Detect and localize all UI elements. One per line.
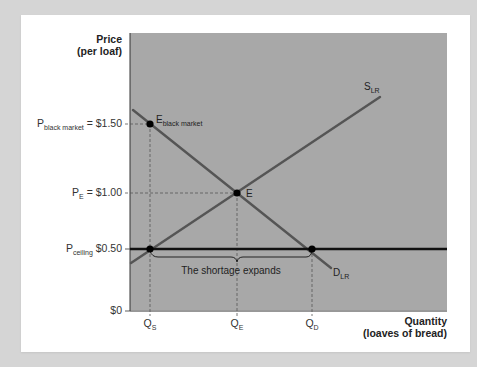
x-axis-title-line2: (loaves of bread) bbox=[363, 327, 447, 339]
point-e bbox=[233, 189, 240, 196]
shortage-annotation: The shortage expands bbox=[181, 265, 281, 276]
y-axis-title-line2: (per loaf) bbox=[77, 45, 122, 57]
price-ceiling-chart: Eblack market E SLR DLR The shortage exp… bbox=[0, 0, 477, 367]
y-axis-title-line1: Price bbox=[96, 33, 122, 45]
point-e-black-market bbox=[146, 120, 153, 127]
x-tick-qe: QE bbox=[231, 317, 244, 331]
y-tick-black-market: Pblack market = $1.50 bbox=[37, 117, 122, 131]
point-ceiling-qd bbox=[308, 245, 315, 252]
x-tick-qs: QS bbox=[144, 317, 157, 331]
x-axis-title-line1: Quantity bbox=[404, 315, 447, 327]
y-ticks bbox=[125, 249, 130, 311]
x-tick-qd: QD bbox=[305, 317, 318, 331]
y-tick-equilibrium: PE = $1.00 bbox=[72, 186, 122, 200]
y-tick-0: $0 bbox=[110, 304, 122, 316]
y-tick-ceiling: Pceiling $0.50 bbox=[66, 242, 122, 257]
plot-area bbox=[130, 33, 447, 310]
point-ceiling-qs bbox=[146, 245, 153, 252]
label-e: E bbox=[246, 188, 253, 199]
